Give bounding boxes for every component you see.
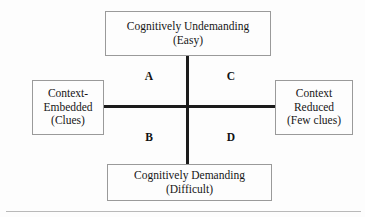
box-left-line-2: Embedded [43,101,92,115]
quadrant-label-c: C [224,70,238,82]
vertical-axis-line [186,56,189,164]
footer-divider [6,211,361,212]
box-top-line-2: (Easy) [127,34,249,48]
box-context-embedded: Context- Embedded (Clues) [32,80,104,135]
quadrant-label-b: B [142,131,156,143]
box-left-text: Context- Embedded (Clues) [39,87,96,128]
box-left-line-1: Context- [43,87,92,101]
box-cognitively-demanding: Cognitively Demanding (Difficult) [107,164,272,201]
quadrant-label-a: A [142,70,156,82]
box-right-line-1: Context [287,87,341,101]
box-cognitively-undemanding: Cognitively Undemanding (Easy) [105,11,271,56]
quadrant-diagram: Cognitively Undemanding (Easy) Context- … [0,0,365,217]
box-right-text: Context Reduced (Few clues) [283,87,345,128]
horizontal-axis-line [104,105,276,108]
box-bottom-line-2: (Difficult) [134,183,245,197]
box-left-line-3: (Clues) [43,114,92,128]
box-bottom-text: Cognitively Demanding (Difficult) [130,169,249,196]
box-context-reduced: Context Reduced (Few clues) [275,80,353,135]
quadrant-label-d: D [224,131,238,143]
box-top-line-1: Cognitively Undemanding [127,20,249,34]
box-bottom-line-1: Cognitively Demanding [134,169,245,183]
box-right-line-2: Reduced [287,101,341,115]
box-top-text: Cognitively Undemanding (Easy) [123,20,253,47]
box-right-line-3: (Few clues) [287,114,341,128]
